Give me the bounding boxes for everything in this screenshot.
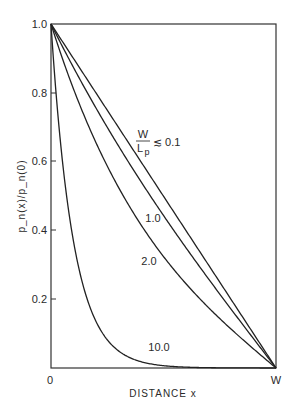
y-tick-0.6: 0.6: [32, 155, 47, 167]
param-denominator-sub: p: [144, 147, 149, 157]
param-relation: ≲ 0.1: [153, 136, 180, 148]
y-tick-1.0: 1.0: [32, 18, 47, 30]
y-tick-0.4: 0.4: [32, 224, 47, 236]
curve-label-2: 2.0: [141, 255, 156, 267]
chart: 1.0 0.8 0.6 0.4 0.2 0 W DISTANCE x p_n(x…: [0, 0, 296, 410]
y-axis-label: p_n(x)/p_n(0): [16, 159, 27, 232]
curve-series-1: [51, 24, 276, 368]
param-numerator: W: [138, 128, 149, 140]
x-tick-origin: 0: [47, 374, 53, 386]
param-denominator: L: [137, 142, 143, 154]
y-tick-0.2: 0.2: [32, 293, 47, 305]
y-ticks: [51, 93, 56, 299]
y-tick-0.8: 0.8: [32, 87, 47, 99]
curves: [51, 24, 276, 368]
curve-label-1: 1.0: [145, 212, 160, 224]
x-tick-w: W: [271, 374, 282, 386]
param-label: W L p ≲ 0.1: [136, 128, 180, 157]
curve-label-10: 10.0: [148, 341, 169, 353]
x-axis-label: DISTANCE x: [129, 388, 197, 399]
